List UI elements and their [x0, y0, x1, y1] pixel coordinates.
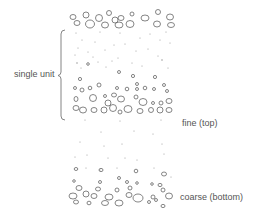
- coarse-bottom-label: coarse (bottom): [180, 192, 243, 202]
- unit2-grading: [69, 168, 173, 208]
- unit1-grading: [73, 63, 172, 114]
- fine-dots-middle: [75, 120, 172, 178]
- graded-bedding-diagram: [0, 0, 261, 216]
- top-coarse-layer: [70, 10, 175, 29]
- fine-top-label: fine (top): [182, 118, 218, 128]
- bracket: [58, 30, 65, 120]
- single-unit-label: single unit: [14, 69, 55, 79]
